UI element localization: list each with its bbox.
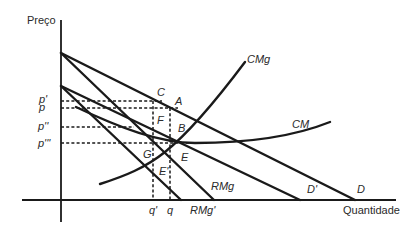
curve-label-rmg: RMg [211, 180, 235, 192]
point-label-f: F [157, 114, 165, 126]
curve-label-cm: CM [292, 118, 310, 130]
price-label-p-double: p'' [37, 120, 49, 132]
y-axis-label: Preço [27, 14, 56, 26]
point-label-b: B [178, 122, 185, 134]
marginal-cost-cmg [100, 62, 245, 184]
curve-label-rmg-prime: RMg' [190, 204, 216, 216]
curve-label-cmg: CMg [247, 53, 271, 65]
price-label-p: p [38, 101, 45, 113]
point-label-a: A [174, 95, 182, 107]
quantity-label-q: q [167, 204, 174, 216]
price-label-p-triple: p''' [37, 137, 51, 149]
point-label-g: G [143, 148, 152, 160]
monopoly-cost-revenue-diagram: Preço Quantidade p' p p'' p''' q' q CMg … [0, 0, 415, 237]
curve-label-d-prime: D' [307, 183, 318, 195]
point-label-e-prime: E' [159, 165, 169, 177]
point-label-c: C [157, 86, 165, 98]
point-label-e: E [181, 151, 189, 163]
quantity-label-q-prime: q' [149, 204, 158, 216]
curve-label-d: D [357, 183, 365, 195]
x-axis-label: Quantidade [343, 204, 400, 216]
